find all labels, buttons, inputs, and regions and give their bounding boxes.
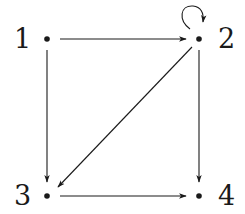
node-label-1: 1 [14,23,31,54]
node-4 [196,193,202,199]
node-label-3: 3 [14,180,31,211]
directed-graph: 1 2 3 4 [0,0,245,214]
node-2 [196,36,202,42]
self-loop-2 [182,6,203,29]
node-3 [44,193,50,199]
node-1 [44,36,50,42]
edge-2-3 [58,47,192,187]
node-label-2: 2 [218,23,235,54]
node-label-4: 4 [218,180,235,211]
